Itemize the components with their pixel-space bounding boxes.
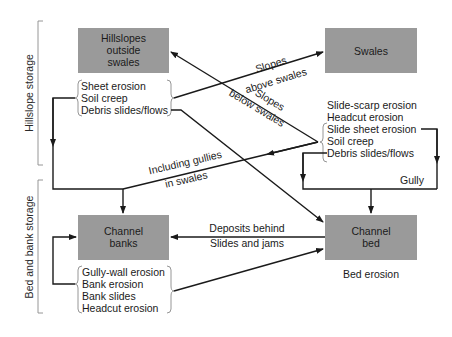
process-item: Sheet erosion xyxy=(81,80,146,92)
bed-bank-storage-label: Bed and bank storage xyxy=(23,195,35,298)
box-label: outside xyxy=(107,44,141,56)
label-deposits-1: Deposits behind xyxy=(209,222,284,234)
process-item: Headcut erosion xyxy=(82,302,159,314)
channel-bed-box: Channel bed xyxy=(325,215,417,260)
arrow-including-gullies-head xyxy=(270,142,318,154)
banks-process-list: Gully-wall erosion Bank erosion Bank sli… xyxy=(75,266,174,314)
box-label: bed xyxy=(362,237,380,249)
label-deposits-2: Slides and jams xyxy=(210,237,284,249)
process-item: Debris slides/flows xyxy=(327,147,414,159)
process-item: Soil creep xyxy=(327,135,374,147)
box-label: swales xyxy=(107,56,139,68)
box-label: Channel xyxy=(104,225,143,237)
process-item: Headcut erosion xyxy=(327,111,404,123)
hillslope-storage-bracket: Hillslope storage xyxy=(23,21,43,165)
box-label: Channel xyxy=(351,225,390,237)
channel-banks-box: Channel banks xyxy=(78,215,169,260)
bed-erosion-label: Bed erosion xyxy=(343,268,399,280)
label-including-1: Including gullies xyxy=(147,148,223,177)
arrow-banks-to-bed xyxy=(174,249,323,291)
process-item: Soil creep xyxy=(81,92,128,104)
box-label: Swales xyxy=(354,45,388,57)
process-item: Bank erosion xyxy=(82,278,143,290)
process-item: Gully-wall erosion xyxy=(82,266,165,278)
process-item: Slide sheet erosion xyxy=(327,123,416,135)
arrow-bank-loop xyxy=(53,237,76,284)
bed-bank-storage-bracket: Bed and bank storage xyxy=(23,180,43,313)
hillslopes-outside-swales-box: Hillslopes outside swales xyxy=(78,28,169,73)
box-label: Hillslopes xyxy=(101,32,146,44)
box-label: banks xyxy=(109,237,137,249)
swales-process-list: Slide-scarp erosion Headcut erosion Slid… xyxy=(320,99,417,162)
label-slopes-above-2: above swales xyxy=(244,65,308,95)
label-gully: Gully xyxy=(400,174,425,186)
process-item: Slide-scarp erosion xyxy=(327,99,417,111)
process-item: Bank slides xyxy=(82,290,136,302)
process-item: Debris slides/flows xyxy=(81,104,168,116)
hillslope-process-list: Sheet erosion Soil creep Debris slides/f… xyxy=(75,80,174,116)
sediment-budget-diagram: Hillslope storage Bed and bank storage H… xyxy=(0,0,452,337)
hillslope-storage-label: Hillslope storage xyxy=(23,54,35,132)
swales-box: Swales xyxy=(325,28,417,73)
